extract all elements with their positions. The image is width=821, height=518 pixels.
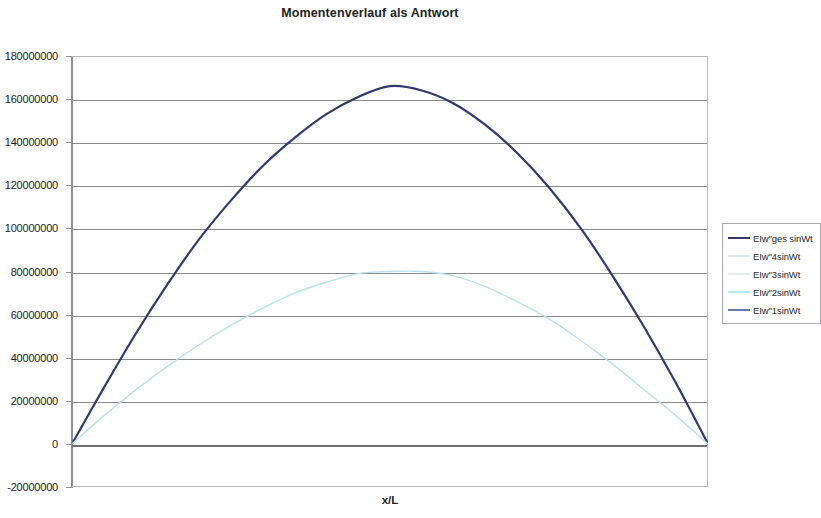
data-curves	[72, 56, 708, 487]
y-axis-tick-label: 140000000	[5, 136, 58, 148]
y-axis-tick-label: 180000000	[5, 50, 58, 62]
y-axis-tick-label: 60000000	[11, 309, 58, 321]
legend-line-swatch	[728, 305, 750, 315]
y-axis-tick-label: 40000000	[11, 352, 58, 364]
chart-container: Momentenverlauf als Antwort 180000000160…	[0, 0, 821, 518]
series-line-1	[72, 86, 708, 444]
legend-line-swatch	[728, 251, 750, 261]
legend-entry-label: EIw"1sinWt	[753, 305, 800, 316]
legend-line-swatch	[728, 269, 750, 279]
y-axis-tick-labels: 1800000001600000001400000001200000001000…	[0, 0, 68, 518]
legend-entry-label: EIw"ges sinWt	[753, 233, 813, 244]
legend-line-swatch	[728, 233, 750, 243]
legend-entry[interactable]: EIw"2sinWt	[726, 283, 817, 301]
y-axis-tick-label: -20000000	[7, 481, 58, 493]
y-axis-tick-label: 0	[52, 438, 58, 450]
legend-line-swatch	[728, 287, 750, 297]
chart-title: Momentenverlauf als Antwort	[0, 6, 740, 20]
legend-entry-label: EIw"4sinWt	[753, 251, 800, 262]
y-axis-tick-label: 20000000	[11, 395, 58, 407]
legend-entry-label: EIw"2sinWt	[753, 287, 800, 298]
legend-entry[interactable]: EIw"ges sinWt	[726, 229, 817, 247]
series-line-4	[72, 271, 708, 444]
y-axis-tick-label: 160000000	[5, 93, 58, 105]
legend-entry[interactable]: EIw"1sinWt	[726, 301, 817, 319]
y-axis-tick-label: 120000000	[5, 179, 58, 191]
y-axis-tick-label: 80000000	[11, 266, 58, 278]
chart-legend: EIw"ges sinWtEIw"4sinWtEIw"3sinWtEIw"2si…	[722, 223, 821, 324]
legend-entry-label: EIw"3sinWt	[753, 269, 800, 280]
x-axis-title: x/L	[72, 494, 708, 506]
legend-entry[interactable]: EIw"4sinWt	[726, 247, 817, 265]
y-axis-tick-label: 100000000	[5, 222, 58, 234]
legend-entry[interactable]: EIw"3sinWt	[726, 265, 817, 283]
